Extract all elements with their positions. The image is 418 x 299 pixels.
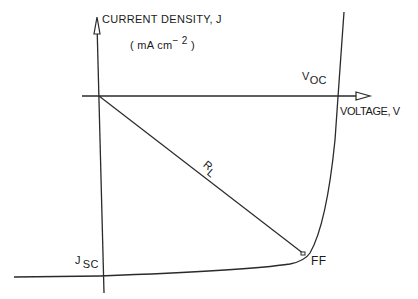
jsc-sub: SC xyxy=(83,258,99,270)
voc-main: V xyxy=(302,70,310,82)
y-axis-label: CURRENT DENSITY, J xyxy=(102,13,222,25)
x-axis-label: VOLTAGE, V xyxy=(340,105,400,117)
voc-label: VOC xyxy=(302,70,327,82)
y-axis-unit-close: ) xyxy=(188,39,195,51)
current-axis-arrow-icon xyxy=(94,17,100,34)
y-axis-unit-exponent: − 2 xyxy=(172,35,187,46)
ff-label: FF xyxy=(311,254,326,268)
jsc-label: JSC xyxy=(75,254,99,266)
jv-diagram xyxy=(0,0,418,299)
ff-point-marker xyxy=(301,252,305,255)
current-axis xyxy=(97,24,104,293)
y-axis-unit: ( mA cm− 2 ) xyxy=(130,39,195,51)
voltage-axis-arrow-icon xyxy=(356,92,370,100)
jsc-main: J xyxy=(75,254,81,266)
load-line xyxy=(99,96,304,254)
y-axis-unit-open: ( mA cm xyxy=(130,39,172,51)
voc-sub: OC xyxy=(310,74,327,86)
jv-curve xyxy=(100,12,344,276)
jsc-line xyxy=(14,276,100,277)
